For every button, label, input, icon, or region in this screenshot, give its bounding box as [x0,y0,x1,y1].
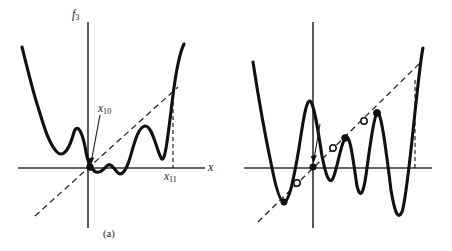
marker-local-min-3-b [373,109,380,116]
panel-caption-a: (a) [103,228,115,239]
curve-f3-b [253,48,423,215]
marker-local-min-1-b [281,199,287,205]
label-x10-sub-a: 10 [103,107,111,116]
panel-a: f3 x x10 x11 (a) [0,0,226,251]
y-axis-label-sub-a: 3 [75,13,79,22]
figure-root: f3 x x10 x11 (a) [0,0,452,251]
marker-secant-pt-2-b [330,145,336,151]
marker-secant-pt-1-b [294,180,300,186]
marker-local-min-2-b [342,135,349,142]
y-axis-label-a: f3 [72,8,80,23]
marker-x10-b [310,164,316,170]
panel-b: f3 x x10 x11 (b) [226,0,452,251]
x10-pointer-line-a [91,115,100,163]
marker-secant-pt-3-b [361,118,367,124]
x10-arrowhead-b [311,156,316,162]
secant-dashed-line-b [258,62,421,222]
label-x11-a: x11 [164,171,177,184]
panel-a-plot [0,0,226,251]
x-axis-label-a: x [208,161,213,173]
panel-b-plot [226,0,452,251]
label-x10-a: x10 [98,103,111,116]
marker-x10-a [87,164,94,171]
label-x11-sub-a: 11 [169,175,177,184]
